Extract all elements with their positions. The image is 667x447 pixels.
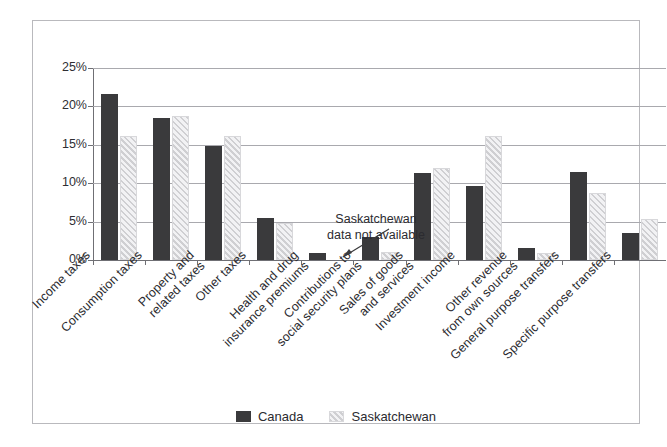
bar-saskatchewan xyxy=(485,136,502,260)
legend-swatch-saskatchewan xyxy=(329,411,344,422)
bar-canada xyxy=(257,218,274,260)
y-tick-mark xyxy=(88,68,93,69)
bar-group xyxy=(153,68,189,260)
y-tick-mark xyxy=(88,106,93,107)
x-tick-mark xyxy=(145,260,146,265)
bar-group xyxy=(518,68,554,260)
bar-group xyxy=(466,68,502,260)
bar-canada xyxy=(153,118,170,260)
legend-label: Canada xyxy=(258,409,304,424)
bar-canada xyxy=(570,172,587,260)
y-tick-mark xyxy=(88,222,93,223)
bar-group xyxy=(622,68,658,260)
annotation-line-2: data not available xyxy=(327,228,425,242)
y-tick-mark xyxy=(88,145,93,146)
bar-canada xyxy=(309,253,326,260)
bar-group xyxy=(101,68,137,260)
legend-swatch-canada xyxy=(236,411,251,422)
bar-saskatchewan xyxy=(172,116,189,260)
bar-saskatchewan xyxy=(641,219,658,260)
y-tick-label: 5% xyxy=(45,214,87,228)
bar-canada xyxy=(518,248,535,260)
bar-group xyxy=(570,68,606,260)
y-tick-label: 10% xyxy=(45,175,87,189)
annotation-line-1: Saskatchewan xyxy=(335,212,416,226)
annotation-text: Saskatchewan data not available xyxy=(301,211,451,243)
bar-group xyxy=(205,68,241,260)
y-tick-mark xyxy=(88,183,93,184)
legend-item[interactable]: Saskatchewan xyxy=(329,409,436,424)
chart-frame: 0%5%10%15%20%25% Income taxesConsumption… xyxy=(32,20,640,424)
x-tick-mark xyxy=(562,260,563,265)
y-axis-line xyxy=(93,68,94,260)
y-tick-label: 15% xyxy=(45,137,87,151)
bar-saskatchewan xyxy=(120,136,137,260)
chart-legend: CanadaSaskatchewan xyxy=(33,409,639,424)
y-tick-label: 25% xyxy=(45,60,87,74)
x-tick-mark xyxy=(93,260,94,265)
bar-saskatchewan xyxy=(224,136,241,260)
x-tick-mark xyxy=(458,260,459,265)
bar-canada xyxy=(622,233,639,260)
bar-group xyxy=(257,68,293,260)
y-tick-label: 20% xyxy=(45,98,87,112)
bar-canada xyxy=(466,186,483,260)
x-tick-mark xyxy=(614,260,615,265)
x-tick-mark xyxy=(249,260,250,265)
legend-item[interactable]: Canada xyxy=(236,409,304,424)
legend-label: Saskatchewan xyxy=(351,409,436,424)
bar-canada xyxy=(205,146,222,260)
bar-canada xyxy=(101,94,118,260)
